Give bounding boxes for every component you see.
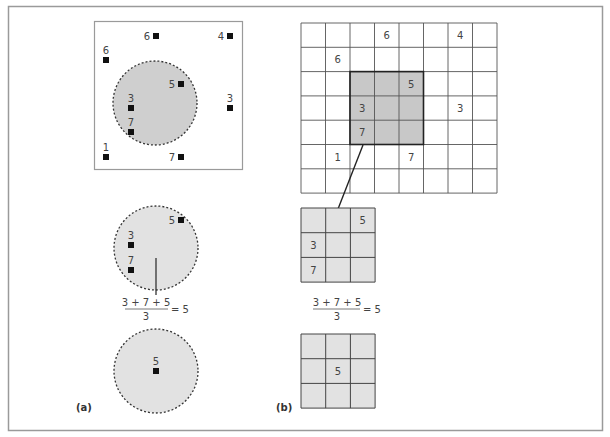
panel-b: 646533717 537 3 + 7 + 5 3 = 5 5 (b) (276, 23, 497, 413)
formula-denominator: 3 (334, 311, 340, 322)
formula-numerator: 3 + 7 + 5 (313, 297, 362, 308)
data-point-marker (103, 57, 109, 63)
data-point-value: 6 (103, 45, 109, 56)
data-point-marker (103, 154, 109, 160)
data-point-value: 3 (128, 93, 134, 104)
data-point-value: 3 (128, 230, 134, 241)
window-connector-line (338, 145, 363, 209)
cell-value: 4 (457, 30, 463, 41)
cell-value: 3 (359, 103, 365, 114)
data-point-marker (227, 33, 233, 39)
formula-b: 3 + 7 + 5 3 = 5 (313, 297, 381, 322)
panel-a-label: (a) (76, 402, 92, 413)
data-point-marker (227, 105, 233, 111)
cell-value: 7 (408, 152, 414, 163)
data-point-value: 7 (128, 117, 134, 128)
data-point-value: 6 (144, 31, 150, 42)
data-point-marker (128, 105, 134, 111)
formula-numerator: 3 + 7 + 5 (122, 297, 171, 308)
cell-value: 7 (359, 127, 365, 138)
panel-a: 646533717 537 3 + 7 + 5 3 = 5 5 (a) (76, 22, 243, 414)
cell-value: 3 (457, 103, 463, 114)
cell-value: 5 (408, 79, 414, 90)
data-point-marker (128, 267, 134, 273)
data-point-marker (153, 33, 159, 39)
data-point-value: 4 (218, 31, 224, 42)
data-point-marker (178, 154, 184, 160)
figure-canvas: 646533717 537 3 + 7 + 5 3 = 5 5 (a) 6465… (0, 0, 610, 437)
cell-value: 7 (310, 265, 316, 276)
data-point-marker (178, 81, 184, 87)
data-point-marker (128, 129, 134, 135)
cell-value: 3 (310, 240, 316, 251)
cell-value: 6 (335, 54, 341, 65)
raster-grid: 646533717 (301, 23, 497, 193)
data-point-value: 7 (169, 152, 175, 163)
result-window-grid: 5 (301, 334, 375, 408)
data-point-value: 3 (227, 93, 233, 104)
cell-value: 5 (335, 366, 341, 377)
panel-b-label: (b) (276, 402, 292, 413)
cell-value: 6 (384, 30, 390, 41)
data-point-marker (128, 242, 134, 248)
formula-a: 3 + 7 + 5 3 = 5 (122, 297, 189, 322)
data-point-value: 7 (128, 255, 134, 266)
panel-a-bottom-points: 5 (153, 356, 159, 374)
data-point-value: 1 (103, 142, 109, 153)
formula-result: = 5 (171, 304, 189, 315)
data-point-value: 5 (169, 215, 175, 226)
data-point-marker (178, 217, 184, 223)
data-point-value: 5 (169, 79, 175, 90)
formula-result: = 5 (363, 304, 381, 315)
data-point-marker (153, 368, 159, 374)
neighborhood-circle (113, 61, 197, 145)
window-detail-grid: 537 (301, 208, 375, 282)
data-point-value: 5 (153, 356, 159, 367)
cell-value: 1 (335, 152, 341, 163)
cell-value: 5 (360, 215, 366, 226)
formula-denominator: 3 (143, 311, 149, 322)
